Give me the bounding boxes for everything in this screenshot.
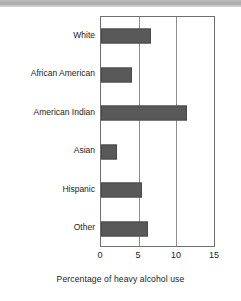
category-label-other: Other bbox=[1, 222, 95, 232]
bar-chart-figure: White African American American Indian A… bbox=[0, 0, 241, 301]
bar-african-american bbox=[101, 67, 132, 82]
bar-hispanic bbox=[101, 183, 142, 198]
bar-row-african-american bbox=[101, 56, 214, 95]
category-label-american-indian: American Indian bbox=[1, 107, 95, 117]
xtick-label-5: 5 bbox=[126, 250, 150, 260]
xtick-label-0: 0 bbox=[88, 250, 112, 260]
category-label-hispanic: Hispanic bbox=[1, 184, 95, 194]
bar-row-white bbox=[101, 17, 214, 56]
bar-row-american-indian bbox=[101, 94, 214, 133]
xtick-label-10: 10 bbox=[164, 250, 188, 260]
bar-row-other bbox=[101, 210, 214, 249]
bar-american-indian bbox=[101, 106, 187, 121]
bar-row-asian bbox=[101, 133, 214, 172]
xtick-label-15: 15 bbox=[202, 250, 226, 260]
category-label-african-american: African American bbox=[1, 68, 95, 78]
bar-row-hispanic bbox=[101, 171, 214, 210]
bar-other bbox=[101, 221, 148, 236]
category-label-white: White bbox=[1, 30, 95, 40]
plot-area bbox=[100, 16, 215, 247]
x-axis-title: Percentage of heavy alcohol use bbox=[0, 274, 241, 284]
category-label-asian: Asian bbox=[1, 145, 95, 155]
bar-white bbox=[101, 29, 151, 44]
bar-asian bbox=[101, 144, 117, 159]
